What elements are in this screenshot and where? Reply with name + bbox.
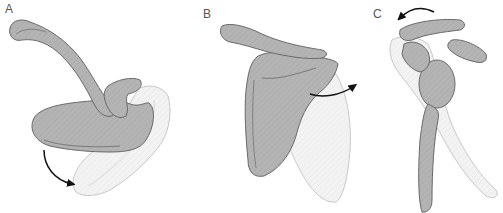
scapula-motion-figure: A B C <box>0 0 503 213</box>
panel-label-c: C <box>373 8 382 20</box>
panel-c <box>390 9 497 213</box>
scapula-a <box>32 100 154 152</box>
acromion-c <box>400 19 465 40</box>
panel-label-a: A <box>5 3 13 15</box>
panel-label-b: B <box>203 8 211 20</box>
panel-b <box>220 24 354 202</box>
coracoid-c <box>448 40 487 63</box>
panel-a <box>10 20 170 196</box>
rotation-arrow-c <box>400 9 434 18</box>
clavicle-a <box>10 20 115 116</box>
rotation-arrow-a <box>44 150 72 184</box>
scapula-blade-c <box>419 104 439 212</box>
clavicle-b <box>220 24 326 58</box>
illustration-canvas <box>0 0 503 213</box>
